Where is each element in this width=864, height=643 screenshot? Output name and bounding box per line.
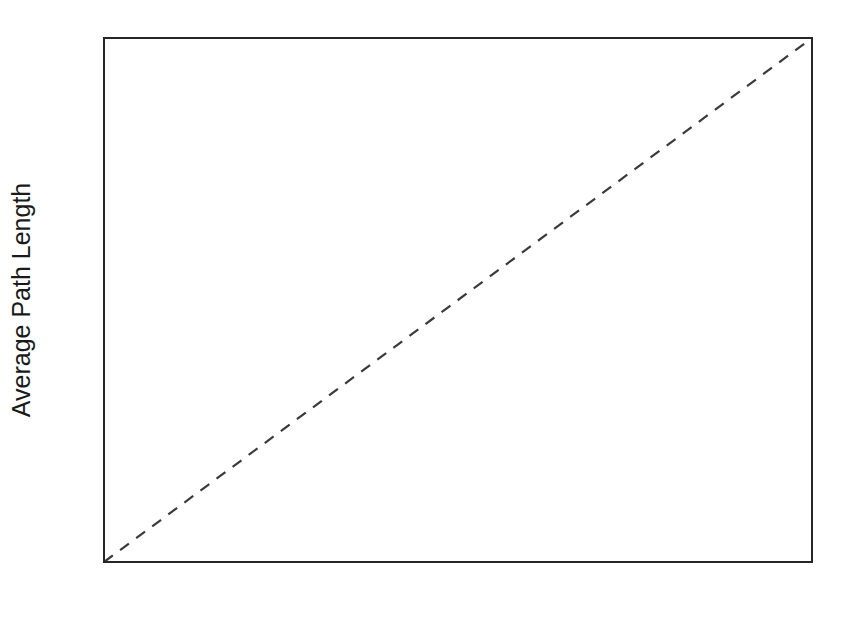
y-axis-title: Average Path Length (7, 183, 35, 417)
scatter-plot: Average Path Length (0, 0, 864, 643)
chart-figure: Average Path Length (0, 0, 864, 643)
